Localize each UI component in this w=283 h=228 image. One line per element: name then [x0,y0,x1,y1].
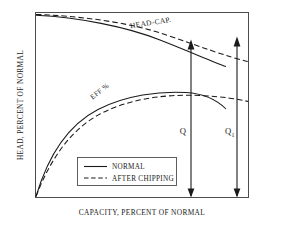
chart-background [0,0,283,228]
legend-label-normal: NORMAL [112,163,145,171]
y-axis-title: HEAD, PERCENT OF NORMAL [16,50,25,160]
legend-label-after-chipping: AFTER CHIPPING [112,175,174,183]
x-axis-title: CAPACITY, PERCENT OF NORMAL [79,208,205,217]
pump-curve-chart: HEAD-CAP. EFF % Q Q 1 NORMAL AFTER CHIPP… [0,0,283,228]
annotation-q-label: Q [180,126,187,136]
figure-root: HEAD-CAP. EFF % Q Q 1 NORMAL AFTER CHIPP… [0,0,283,228]
annotation-q1-subscript: 1 [232,132,235,138]
legend: NORMAL AFTER CHIPPING [78,158,177,186]
